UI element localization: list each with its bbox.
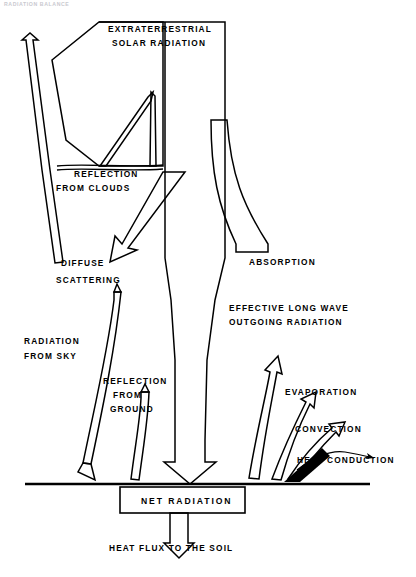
running-head: RADIATION BALANCE [4, 1, 69, 7]
label-radiation: RADIATION [24, 336, 80, 346]
label-solar-radiation: SOLAR RADIATION [112, 38, 206, 48]
label-heat-conduction: HEAT CONDUCTION [297, 455, 395, 465]
label-from-clouds: FROM CLOUDS [56, 183, 130, 193]
label-net-radiation: NET RADIATION [141, 496, 232, 506]
reflection-from-clouds-spike-1 [100, 92, 153, 166]
label-absorption: ABSORPTION [249, 257, 316, 267]
radiation-from-sky-arrowhead [78, 463, 95, 480]
label-from-sky: FROM SKY [24, 351, 77, 361]
label-heat-flux-to-soil: HEAT FLUX TO THE SOIL [109, 543, 233, 553]
label-evaporation: EVAPORATION [285, 387, 357, 397]
effective-long-wave-outgoing-arrow [249, 356, 282, 479]
label-reflection-from-ground-1: REFLECTION [103, 376, 168, 386]
extraterrestrial-solar-beam [99, 22, 225, 484]
label-effective-long-wave: EFFECTIVE LONG WAVE [229, 303, 349, 313]
diagram-canvas: RADIATION BALANCE [0, 0, 416, 577]
label-outgoing-radiation: OUTGOING RADIATION [229, 317, 343, 327]
reflection-from-clouds-spike-2 [150, 92, 156, 166]
label-reflection-from-ground-3: GROUND [110, 404, 154, 414]
label-diffuse: DIFFUSE [61, 258, 105, 268]
reflection-from-clouds-arrow [22, 33, 63, 263]
label-reflection-from-ground-2: FROM [113, 390, 142, 400]
radiation-from-sky-tip [114, 284, 121, 292]
label-reflection: REFLECTION [74, 169, 139, 179]
absorption-arrow [211, 120, 268, 252]
label-scattering: SCATTERING [56, 275, 121, 285]
label-extraterrestrial: EXTRATERRESTRIAL [108, 24, 212, 34]
cloud-layer-line-upper [57, 165, 163, 166]
label-convection: CONVECTION [295, 424, 362, 434]
radiation-balance-diagram: RADIATION BALANCE [0, 0, 416, 577]
